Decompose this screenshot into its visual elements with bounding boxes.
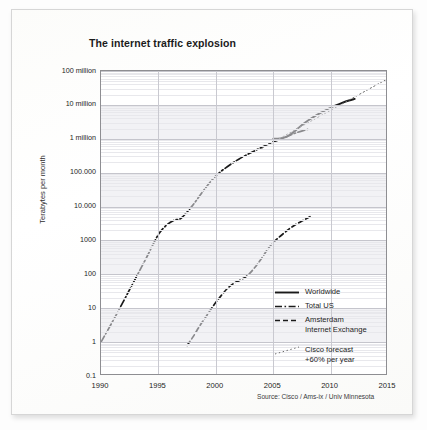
legend-label: Worldwide — [305, 287, 340, 297]
gridline-minor — [101, 224, 386, 225]
gridline-minor — [101, 276, 386, 277]
gridline-minor — [101, 144, 386, 145]
y-tick-label: 1 million — [34, 133, 96, 142]
gridline-major-horizontal — [101, 274, 386, 275]
gridline-minor — [101, 174, 386, 175]
gridline-minor — [101, 106, 386, 107]
gridline-minor — [101, 95, 386, 96]
gridline-minor — [101, 212, 386, 213]
gridline-minor — [101, 246, 386, 247]
legend-label: Total US — [305, 301, 334, 311]
y-tick-label: 100 — [34, 269, 96, 278]
gridline-minor — [101, 248, 386, 249]
gridline-minor — [101, 183, 386, 184]
legend-label: Cisco forecast +60% per year — [305, 345, 355, 364]
legend-label: Amsterdam Internet Exchange — [305, 315, 367, 334]
page-root: The internet traffic explosion Terabytes… — [0, 0, 427, 430]
y-tick-label: 100.000 — [34, 167, 96, 176]
gridline-minor — [101, 258, 386, 259]
gridline-minor — [101, 74, 386, 75]
gridline-minor — [101, 140, 386, 141]
gridline-minor — [101, 278, 386, 279]
gridline-major-horizontal — [101, 71, 386, 72]
gridline-minor — [101, 129, 386, 130]
legend-item: Amsterdam Internet Exchange — [274, 315, 367, 334]
y-tick-label: 100 million — [34, 66, 96, 75]
gridline-minor — [101, 115, 386, 116]
source-note: Source: Cisco / Ams-ix / Univ Minnesota — [257, 393, 374, 400]
gridline-major-horizontal — [101, 139, 386, 140]
gridline-minor — [101, 264, 386, 265]
y-axis-label: Terabytes per month — [38, 130, 47, 250]
legend-item: Total US — [274, 301, 367, 311]
gridline-minor — [101, 108, 386, 109]
chart-legend: WorldwideTotal USAmsterdam Internet Exch… — [274, 287, 367, 368]
gridline-minor — [101, 230, 386, 231]
page-title: The internet traffic explosion — [89, 37, 236, 49]
legend-item: Cisco forecast +60% per year — [274, 345, 367, 364]
legend-item: Worldwide — [274, 287, 367, 297]
gridline-minor — [101, 190, 386, 191]
gridline-minor — [101, 208, 386, 209]
x-tick-label: 2010 — [308, 381, 352, 390]
gridline-minor — [101, 176, 386, 177]
gridline-minor — [101, 79, 386, 80]
gridline-major-vertical — [158, 71, 159, 374]
gridline-minor — [101, 146, 386, 147]
gridline-minor — [101, 251, 386, 252]
gridline-major-horizontal — [101, 105, 386, 106]
gridline-minor — [101, 196, 386, 197]
gridline-minor — [101, 156, 386, 157]
x-tick-label: 2015 — [365, 381, 409, 390]
legend-swatch-solid — [274, 288, 300, 297]
x-tick-label: 2005 — [250, 381, 294, 390]
gridline-minor — [101, 76, 386, 77]
y-tick-label: 1000 — [34, 235, 96, 244]
y-tick-label: 10 — [34, 303, 96, 312]
legend-swatch-dotted — [274, 346, 300, 355]
gridline-minor — [101, 110, 386, 111]
gridline-major-horizontal — [101, 207, 386, 208]
gridline-minor — [101, 244, 386, 245]
gridline-minor — [101, 220, 386, 221]
x-tick-label: 1995 — [135, 381, 179, 390]
gridline-minor — [101, 89, 386, 90]
gridline-minor — [101, 210, 386, 211]
chart-card: The internet traffic explosion Terabytes… — [11, 9, 413, 415]
gridline-major-horizontal — [101, 240, 386, 241]
y-tick-label: 0.1 — [34, 371, 96, 380]
y-tick-label: 10.000 — [34, 201, 96, 210]
gridline-minor — [101, 280, 386, 281]
gridline-minor — [101, 118, 386, 119]
gridline-minor — [101, 186, 386, 187]
legend-swatch-dashed — [274, 316, 300, 325]
gridline-minor — [101, 180, 386, 181]
y-tick-label: 1 — [34, 337, 96, 346]
gridline-major-horizontal — [101, 173, 386, 174]
x-tick-label: 1990 — [78, 381, 122, 390]
gridline-minor — [101, 162, 386, 163]
x-tick-label: 2000 — [193, 381, 237, 390]
gridline-minor — [101, 123, 386, 124]
gridline-minor — [101, 81, 386, 82]
gridline-minor — [101, 149, 386, 150]
gridline-minor — [101, 282, 386, 283]
gridline-minor — [101, 84, 386, 85]
gridline-minor — [101, 73, 386, 74]
y-tick-label: 10 million — [34, 99, 96, 108]
gridline-minor — [101, 254, 386, 255]
legend-swatch-dashdot — [274, 302, 300, 311]
gridline-minor — [101, 152, 386, 153]
gridline-minor — [101, 242, 386, 243]
gridline-minor — [101, 112, 386, 113]
gridline-minor — [101, 142, 386, 143]
gridline-minor — [101, 285, 386, 286]
gridline-minor — [101, 214, 386, 215]
gridline-major-vertical — [216, 71, 217, 374]
gridline-minor — [101, 178, 386, 179]
gridline-minor — [101, 217, 386, 218]
